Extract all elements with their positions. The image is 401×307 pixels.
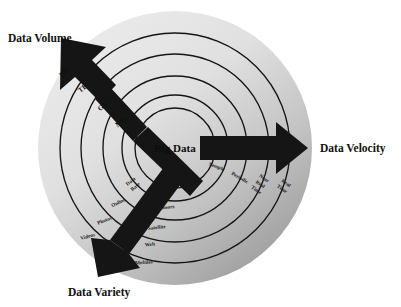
center-label: Big Data (154, 142, 196, 154)
axis-label-data-volume: Data Volume (8, 32, 72, 44)
axis-label-data-variety: Data Variety (68, 286, 131, 299)
diagram-canvas: Big Data Data Volume Data Velocity Data … (0, 0, 401, 307)
ring-label-mobiles: Mobiles (135, 258, 153, 265)
big-data-diagram: Big Data Data Volume Data Velocity Data … (0, 0, 401, 307)
axis-label-data-velocity: Data Velocity (320, 142, 386, 155)
ring-label-web: Web (144, 240, 155, 247)
